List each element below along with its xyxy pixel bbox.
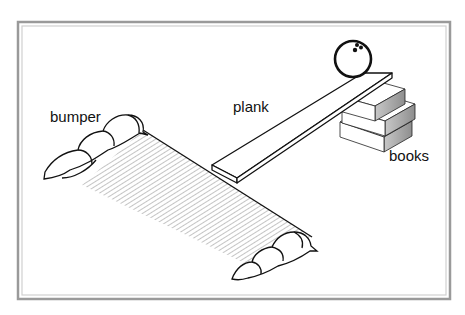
finger-hole (355, 43, 359, 47)
label-books: books (389, 147, 429, 164)
ramp-diagram: bumper plank books (0, 0, 465, 315)
thumb-hole (353, 48, 357, 52)
bowling-ball (335, 41, 371, 77)
label-bumper: bumper (50, 108, 101, 125)
finger-hole (359, 46, 363, 50)
label-plank: plank (233, 98, 269, 115)
